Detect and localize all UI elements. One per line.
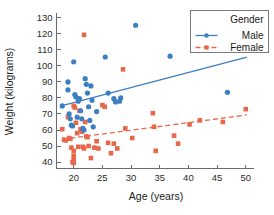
- data-point-female: [89, 156, 94, 161]
- data-point-female: [85, 135, 90, 140]
- y-tick-label: 70: [42, 108, 53, 119]
- data-point-female: [60, 127, 65, 132]
- data-point-male: [75, 115, 80, 120]
- data-point-female: [96, 146, 101, 151]
- data-point-male: [103, 54, 108, 59]
- chart-canvas: 405060708090100110120130 20253035404550 …: [0, 0, 274, 215]
- trend-line-male: [62, 57, 247, 106]
- x-tick-label: 40: [183, 172, 194, 183]
- data-point-female: [71, 153, 76, 158]
- data-point-male: [84, 82, 89, 87]
- chart-legend[interactable]: Gender Male Female: [191, 11, 269, 54]
- data-point-female: [112, 141, 117, 146]
- data-point-female: [76, 145, 81, 150]
- data-point-male: [65, 87, 70, 92]
- data-point-male: [106, 91, 111, 96]
- data-point-male: [71, 59, 76, 64]
- y-tick-label: 60: [42, 124, 53, 135]
- data-point-female: [121, 67, 126, 72]
- x-axis-ticks: 20253035404550: [68, 165, 251, 183]
- x-tick-label: 30: [126, 172, 137, 183]
- legend-title: Gender: [230, 14, 264, 25]
- y-tick-label: 130: [37, 12, 53, 23]
- data-point-female: [70, 160, 75, 165]
- legend-key-marker-female: [204, 45, 208, 49]
- data-point-female: [94, 139, 99, 144]
- data-point-female: [75, 131, 80, 136]
- data-point-female: [82, 146, 87, 151]
- data-point-male: [65, 79, 70, 84]
- data-point-female: [115, 146, 120, 151]
- data-point-female: [130, 136, 135, 141]
- data-point-male: [118, 95, 123, 100]
- x-tick-label: 25: [97, 172, 108, 183]
- data-point-female: [176, 141, 181, 146]
- y-tick-label: 90: [42, 76, 53, 87]
- data-point-female: [221, 120, 226, 125]
- data-point-male: [86, 104, 91, 109]
- y-tick-label: 120: [37, 28, 53, 39]
- data-point-male: [60, 103, 65, 108]
- x-tick-label: 50: [240, 172, 251, 183]
- data-point-male: [70, 123, 75, 128]
- y-tick-label: 110: [37, 44, 52, 55]
- y-tick-label: 40: [42, 156, 53, 167]
- data-point-male: [91, 124, 96, 129]
- data-point-male: [85, 91, 90, 96]
- data-point-male: [89, 98, 94, 103]
- data-point-male: [81, 127, 86, 132]
- legend-key-marker-male: [204, 33, 209, 38]
- data-point-male: [67, 111, 72, 116]
- data-point-female: [172, 133, 177, 138]
- data-point-female: [71, 149, 76, 154]
- data-point-male: [79, 116, 84, 121]
- data-point-female: [68, 137, 73, 142]
- x-tick-label: 45: [212, 172, 223, 183]
- data-point-female: [151, 111, 156, 116]
- data-point-male: [225, 90, 230, 95]
- data-point-female: [86, 144, 91, 149]
- data-point-female: [153, 149, 158, 154]
- data-point-female: [73, 105, 78, 110]
- legend-item-female-label: Female: [230, 42, 264, 53]
- y-axis-title: Weight (kilograms): [3, 48, 15, 135]
- data-point-female: [82, 33, 87, 38]
- data-point-female: [102, 104, 107, 109]
- data-point-male: [94, 109, 99, 114]
- y-tick-label: 80: [42, 92, 53, 103]
- scatter-chart-figure: 405060708090100110120130 20253035404550 …: [0, 0, 274, 215]
- y-tick-label: 100: [37, 60, 53, 71]
- data-point-female: [109, 151, 114, 156]
- x-tick-label: 35: [154, 172, 165, 183]
- x-axis-title: Age (years): [129, 190, 183, 202]
- data-point-male: [77, 96, 82, 101]
- legend-item-male-label: Male: [242, 30, 264, 41]
- y-tick-label: 50: [42, 140, 53, 151]
- data-point-female: [106, 141, 111, 146]
- data-point-female: [198, 118, 203, 123]
- data-point-female: [123, 126, 128, 131]
- data-point-male: [68, 116, 73, 121]
- data-point-male: [167, 54, 172, 59]
- data-point-female: [92, 145, 97, 150]
- data-point-male: [133, 23, 138, 28]
- data-point-female: [187, 122, 192, 127]
- data-point-male: [87, 118, 92, 123]
- data-point-male: [83, 76, 88, 81]
- data-point-male: [78, 108, 83, 113]
- x-tick-label: 20: [68, 172, 79, 183]
- data-point-female: [152, 124, 157, 129]
- data-point-female: [243, 107, 248, 112]
- data-point-male: [88, 83, 93, 88]
